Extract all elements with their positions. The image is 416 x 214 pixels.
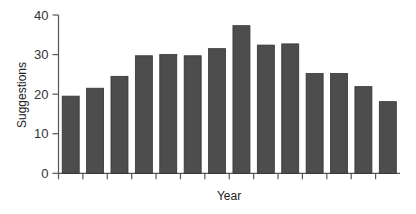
bar-chart: 010203040 Suggestions Year [0,0,416,214]
bar [257,45,274,173]
bar [62,96,79,173]
y-tick-label: 40 [34,8,48,23]
bar [282,44,299,173]
bar [160,55,177,174]
bar [355,87,372,174]
y-axis-title: Suggestions [15,62,29,128]
x-axis [59,173,401,179]
y-tick-label: 0 [41,166,48,181]
bar [87,88,104,173]
bar [233,26,250,174]
bar [379,102,396,174]
bar [184,56,201,174]
bar [209,49,226,174]
y-tick-label: 20 [34,87,48,102]
bar [306,74,323,174]
y-tick-label: 30 [34,47,48,62]
y-tick-label: 10 [34,126,48,141]
x-axis-title: Year [217,189,241,203]
bar [331,74,348,174]
bar [111,76,128,173]
bar [135,56,152,174]
bars [62,26,396,174]
y-axis: 010203040 [34,8,58,181]
